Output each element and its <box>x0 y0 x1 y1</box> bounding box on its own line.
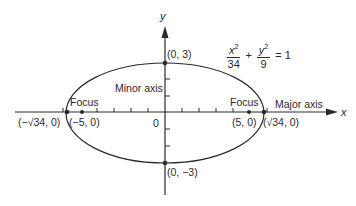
equation-term-y: y2 9 <box>257 40 270 71</box>
minor-axis-label: Minor axis <box>115 82 163 94</box>
ellipse-equation: x2 34 + y2 9 = 1 <box>225 40 294 71</box>
right-focus-coord: (5, 0) <box>232 116 257 128</box>
right-focus-point <box>247 110 251 114</box>
left-focus-point <box>80 110 84 114</box>
equation-term-x: x2 34 <box>227 40 240 71</box>
y-denominator: 9 <box>260 58 266 71</box>
right-vertex-coord: (√34, 0) <box>263 116 299 128</box>
equals-one: = 1 <box>275 49 291 61</box>
top-vertex-coord: (0, 3) <box>167 48 192 60</box>
right-focus-label: Focus <box>230 96 259 108</box>
x-denominator: 34 <box>228 58 240 71</box>
bottom-vertex-coord: (0, −3) <box>167 166 198 178</box>
origin-label: 0 <box>153 117 159 129</box>
x-axis-arrow-icon <box>326 109 338 116</box>
left-focus-coord: (−5, 0) <box>69 116 100 128</box>
top-vertex-point <box>163 61 168 66</box>
x-exponent: 2 <box>235 43 239 50</box>
left-vertex-coord: (−√34, 0) <box>18 116 60 128</box>
y-exponent: 2 <box>264 43 268 50</box>
y-axis-arrow-icon <box>162 26 169 38</box>
left-vertex-point <box>65 110 70 115</box>
x-axis-label: x <box>340 106 347 118</box>
ellipse-diagram: y x 0 Minor axis Major axis Focus Focus … <box>0 0 356 206</box>
left-focus-label: Focus <box>70 96 99 108</box>
major-axis-label: Major axis <box>275 98 323 110</box>
right-vertex-point <box>262 110 267 115</box>
bottom-vertex-point <box>163 161 168 166</box>
plus-sign: + <box>245 49 251 61</box>
y-axis-label: y <box>159 10 167 22</box>
diagram-svg: y x 0 Minor axis Major axis Focus Focus … <box>0 0 356 206</box>
